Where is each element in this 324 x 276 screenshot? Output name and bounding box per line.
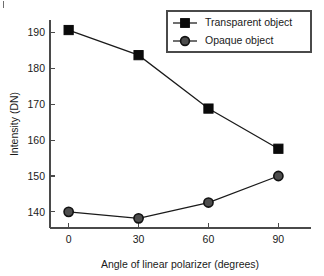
y-tick-label: 190 — [27, 26, 45, 38]
chart-figure: 140150160170180190 0306090 Angle of line… — [0, 0, 324, 276]
y-axis-title: Intensity (DN) — [8, 92, 20, 156]
x-tick-label: 0 — [66, 233, 72, 245]
data-point-circle — [274, 171, 283, 180]
x-tick-label: 30 — [133, 233, 145, 245]
x-tick-label: 90 — [273, 233, 285, 245]
data-point-circle — [64, 207, 73, 216]
x-axis-ticks: 0306090 — [66, 223, 285, 245]
data-point-square — [274, 144, 283, 153]
y-tick-label: 180 — [27, 62, 45, 74]
intensity-vs-polarizer-angle-chart: 140150160170180190 0306090 Angle of line… — [0, 0, 324, 276]
y-tick-label: 150 — [27, 170, 45, 182]
y-tick-label: 140 — [27, 206, 45, 218]
data-point-square — [134, 51, 143, 60]
legend-square-marker-icon — [181, 19, 190, 28]
chart-legend: Transparent objectOpaque object — [167, 11, 311, 52]
legend-label: Transparent object — [205, 16, 292, 28]
data-series-layer — [64, 25, 283, 222]
data-point-square — [64, 25, 73, 34]
series-line-circle — [69, 176, 279, 218]
data-point-square — [204, 104, 213, 113]
x-tick-label: 60 — [203, 233, 215, 245]
x-axis-title: Angle of linear polarizer (degrees) — [101, 258, 259, 270]
y-tick-label: 160 — [27, 134, 45, 146]
data-point-circle — [204, 198, 213, 207]
y-tick-label: 170 — [27, 98, 45, 110]
legend-label: Opaque object — [205, 34, 273, 46]
legend-circle-marker-icon — [181, 37, 190, 46]
data-point-circle — [134, 214, 143, 223]
y-axis-ticks: 140150160170180190 — [27, 26, 55, 217]
